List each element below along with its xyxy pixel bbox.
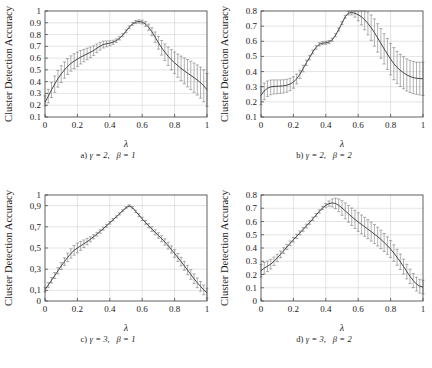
x-tick-label: 0.8 [385,304,397,314]
y-tick-label: 0.4 [246,243,258,253]
plot-area-d: 00.10.20.30.40.50.60.70.800.20.40.60.81λ… [216,184,432,334]
y-tick-label: 0 [37,296,42,306]
caption-prefix-a: a) [80,150,87,160]
x-axis-title: λ [123,322,129,333]
axes-c: 00,10,30,50,70,9100.20.40.60.81 [30,190,210,314]
x-tick-label: 0.4 [320,304,332,314]
chart-svg-a: 0.10.20.30.40.50.60.70.80.9100.20.40.60.… [0,0,216,150]
y-tick-label: 0,1 [30,285,41,295]
error-bars-b [259,11,424,105]
y-axis-title: Cluster Detection Accuracy [219,5,230,122]
y-tick-label: 0.6 [246,217,258,227]
x-tick-label: 1 [205,304,210,314]
y-tick-label: 0.1 [246,283,257,293]
x-tick-label: 0.6 [353,304,365,314]
x-tick-label: 0.4 [104,304,116,314]
x-tick-label: 0.2 [72,304,83,314]
panel-caption-d: d) γ = 3, β = 2 [216,334,432,344]
y-tick-label: 0.5 [246,51,258,61]
y-tick-label: 1 [37,190,42,200]
y-tick-label: 0.6 [246,36,258,46]
y-tick-label: 0.8 [246,190,258,200]
data-series-line [45,21,207,102]
y-tick-label: 0.3 [30,88,42,98]
y-tick-label: 0.5 [246,230,258,240]
figure-four-panel-chart: 0.10.20.30.40.50.60.70.80.9100.20.40.60.… [0,0,432,368]
plot-area-a: 0.10.20.30.40.50.60.70.80.9100.20.40.60.… [0,0,216,150]
panel-c: 00,10,30,50,70,9100.20.40.60.81λCluster … [0,184,216,368]
chart-svg-c: 00,10,30,50,70,9100.20.40.60.81λCluster … [0,184,216,334]
x-tick-label: 0.6 [353,120,365,130]
data-series-line [45,206,207,293]
x-tick-label: 0.2 [288,120,299,130]
y-tick-label: 0.8 [246,6,258,16]
plot-area-c: 00,10,30,50,70,9100.20.40.60.81λCluster … [0,184,216,334]
plot-frame [45,11,207,117]
x-tick-label: 0.2 [288,304,299,314]
y-tick-label: 0.8 [30,30,42,40]
x-tick-label: 0.4 [320,120,332,130]
caption-gamma-d: γ = 3, [306,334,326,344]
y-tick-label: 0.9 [30,18,42,28]
x-axis-title: λ [123,138,129,149]
panel-a: 0.10.20.30.40.50.60.70.80.9100.20.40.60.… [0,0,216,184]
caption-gamma-c: γ = 3, [90,334,110,344]
x-tick-label: 0.6 [137,120,149,130]
gridlines-c [45,195,207,301]
caption-prefix-b: b) [296,150,303,160]
panel-caption-b: b) γ = 2, β = 2 [216,150,432,160]
y-tick-label: 0.3 [246,256,258,266]
panel-caption-c: c) γ = 3, β = 1 [0,334,216,344]
x-tick-label: 0.2 [72,120,83,130]
caption-gamma-b: γ = 2, [306,150,326,160]
caption-gamma-a: γ = 2, [90,150,110,160]
x-tick-label: 0.8 [169,304,181,314]
x-tick-label: 1 [421,120,426,130]
x-tick-label: 0.4 [104,120,116,130]
gridlines-a [45,11,207,117]
caption-prefix-c: c) [80,334,87,344]
chart-svg-d: 00.10.20.30.40.50.60.70.800.20.40.60.81λ… [216,184,432,334]
x-tick-label: 0 [43,304,48,314]
error-bars-c [43,205,208,298]
y-axis-title: Cluster Detection Accuracy [3,189,14,306]
plot-frame [261,11,423,117]
y-tick-label: 0.2 [30,100,41,110]
caption-beta-b: β = 2 [333,150,352,160]
y-axis-title: Cluster Detection Accuracy [219,189,230,306]
y-tick-label: 0.4 [30,77,42,87]
x-axis-title: λ [339,138,345,149]
x-tick-label: 0.8 [385,120,397,130]
gridlines-b [261,11,423,117]
x-tick-label: 0.6 [137,304,149,314]
y-tick-label: 0.5 [30,65,42,75]
y-tick-label: 0.2 [246,97,257,107]
y-tick-label: 0 [253,296,258,306]
y-tick-label: 0.2 [246,270,257,280]
panel-caption-a: a) γ = 2, β = 1 [0,150,216,160]
panel-d: 00.10.20.30.40.50.60.70.800.20.40.60.81λ… [216,184,432,368]
y-tick-label: 0.6 [30,53,42,63]
axes-a: 0.10.20.30.40.50.60.70.80.9100.20.40.60.… [30,6,210,130]
plot-area-b: 0.10.20.30.40.50.60.70.800.20.40.60.81λC… [216,0,432,150]
y-tick-label: 0,9 [30,201,42,211]
y-tick-label: 0,7 [30,222,42,232]
x-tick-label: 0 [43,120,48,130]
chart-svg-b: 0.10.20.30.40.50.60.70.800.20.40.60.81λC… [216,0,432,150]
data-series-line [261,13,423,96]
x-tick-label: 1 [205,120,210,130]
y-tick-label: 1 [37,6,42,16]
caption-beta-d: β = 2 [333,334,352,344]
x-tick-label: 0 [259,304,264,314]
x-tick-label: 0 [259,120,264,130]
x-tick-label: 0.8 [169,120,181,130]
panel-b: 0.10.20.30.40.50.60.70.800.20.40.60.81λC… [216,0,432,184]
y-tick-label: 0.1 [246,112,257,122]
caption-beta-c: β = 1 [117,334,136,344]
y-tick-label: 0.7 [30,41,42,51]
x-tick-label: 1 [421,304,426,314]
caption-prefix-d: d) [296,334,303,344]
y-tick-label: 0.1 [30,112,41,122]
caption-beta-a: β = 1 [117,150,136,160]
y-tick-label: 0.7 [246,21,258,31]
